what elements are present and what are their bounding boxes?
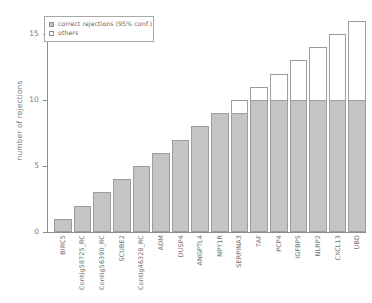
bar-group[interactable] (152, 153, 170, 232)
bar-segment-correct-rejections[interactable] (348, 100, 366, 232)
x-label-cell: SCUBE2 (113, 235, 131, 301)
bar-group[interactable] (309, 47, 327, 232)
bar-segment-correct-rejections[interactable] (54, 219, 72, 232)
bar-group[interactable] (270, 74, 288, 232)
bar-segment-others[interactable] (290, 60, 308, 100)
legend-label: correct rejections (95% conf.) (58, 21, 152, 27)
y-tick-mark (43, 166, 47, 167)
bar-chart-figure: number of rejections 051015 BIRC5Contig5… (0, 0, 372, 303)
bar-segment-correct-rejections[interactable] (152, 153, 170, 232)
x-tick-label: SCUBE2 (118, 235, 124, 262)
x-label-cell: Contig46328_RC (133, 235, 151, 301)
x-axis-labels: BIRC5Contig58725_RCContig56390_RCSCUBE2C… (48, 235, 366, 301)
bar-group[interactable] (113, 179, 131, 232)
legend-label: others (58, 30, 78, 36)
y-tick-label: 10 (29, 96, 39, 104)
x-label-cell: TAF (250, 235, 268, 301)
bar-group[interactable] (172, 140, 190, 232)
bar-segment-correct-rejections[interactable] (290, 100, 308, 232)
bar-segment-correct-rejections[interactable] (93, 192, 111, 232)
bar-group[interactable] (54, 219, 72, 232)
x-label-cell: SERPINA3 (231, 235, 249, 301)
bar-segment-correct-rejections[interactable] (309, 100, 327, 232)
y-tick-mark (43, 100, 47, 101)
bars-layer (48, 14, 366, 232)
bar-group[interactable] (231, 100, 249, 232)
bar-segment-others[interactable] (231, 100, 249, 113)
y-tick-label: 5 (34, 162, 39, 170)
bar-group[interactable] (348, 21, 366, 232)
bar-segment-correct-rejections[interactable] (270, 100, 288, 232)
bar-segment-correct-rejections[interactable] (231, 113, 249, 232)
x-label-cell: ANGPTL4 (191, 235, 209, 301)
x-tick-label: Contig58725_RC (79, 235, 85, 290)
x-tick-label: NLRP2 (315, 235, 321, 256)
x-tick-label: ADM (158, 235, 164, 250)
bar-group[interactable] (133, 166, 151, 232)
bar-segment-correct-rejections[interactable] (329, 100, 347, 232)
bar-group[interactable] (329, 34, 347, 232)
bar-segment-others[interactable] (250, 87, 268, 100)
bar-segment-correct-rejections[interactable] (211, 113, 229, 232)
x-label-cell: NLRP2 (309, 235, 327, 301)
x-label-cell: DUSP4 (172, 235, 190, 301)
x-label-cell: CXCL13 (329, 235, 347, 301)
x-tick-label: SERPINA3 (236, 235, 242, 268)
y-axis-title: number of rejections (15, 71, 24, 171)
bar-segment-others[interactable] (348, 21, 366, 100)
x-label-cell: Contig56390_RC (93, 235, 111, 301)
bar-segment-correct-rejections[interactable] (191, 126, 209, 232)
bar-segment-correct-rejections[interactable] (133, 166, 151, 232)
bar-segment-others[interactable] (270, 74, 288, 100)
x-axis-line (47, 232, 366, 233)
bar-segment-others[interactable] (309, 47, 327, 100)
bar-segment-correct-rejections[interactable] (172, 140, 190, 232)
x-label-cell: UBD (348, 235, 366, 301)
x-tick-label: NPY1R (217, 235, 223, 257)
x-tick-label: TAF (256, 235, 262, 247)
bar-segment-others[interactable] (329, 34, 347, 100)
x-tick-label: UBD (354, 235, 360, 249)
legend-item: correct rejections (95% conf.) (49, 21, 149, 29)
x-tick-label: CXCL13 (334, 235, 340, 260)
y-tick-label: 15 (29, 30, 39, 38)
x-tick-label: DUSP4 (177, 235, 183, 257)
legend-swatch-icon (49, 31, 54, 36)
y-tick-label: 0 (34, 228, 39, 236)
x-tick-label: BIRC5 (60, 235, 66, 255)
x-tick-label: IGFBP5 (295, 235, 301, 259)
bar-group[interactable] (250, 87, 268, 232)
x-label-cell: NPY1R (211, 235, 229, 301)
x-label-cell: ADM (152, 235, 170, 301)
bar-group[interactable] (93, 192, 111, 232)
x-label-cell: PCP4 (270, 235, 288, 301)
legend-swatch-icon (49, 22, 54, 27)
x-tick-label: Contig56390_RC (99, 235, 105, 290)
bar-group[interactable] (191, 126, 209, 232)
bar-group[interactable] (290, 60, 308, 232)
x-tick-label: Contig46328_RC (138, 235, 144, 290)
bar-segment-correct-rejections[interactable] (250, 100, 268, 232)
plot-area (48, 14, 366, 232)
legend-item: others (49, 29, 149, 37)
bar-segment-correct-rejections[interactable] (74, 206, 92, 232)
x-label-cell: Contig58725_RC (74, 235, 92, 301)
bar-group[interactable] (74, 206, 92, 232)
chart-legend: correct rejections (95% conf.)others (44, 16, 154, 42)
x-label-cell: IGFBP5 (290, 235, 308, 301)
x-tick-label: ANGPTL4 (197, 235, 203, 266)
x-label-cell: BIRC5 (54, 235, 72, 301)
x-tick-label: PCP4 (275, 235, 281, 252)
bar-group[interactable] (211, 113, 229, 232)
bar-segment-correct-rejections[interactable] (113, 179, 131, 232)
